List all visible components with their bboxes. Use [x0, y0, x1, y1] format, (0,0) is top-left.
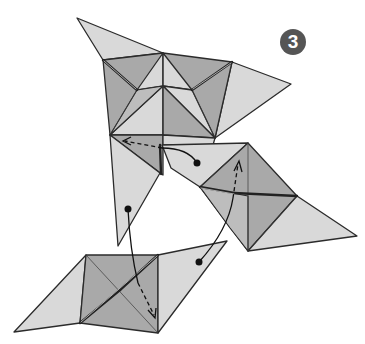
- bottom-left-flap: [14, 255, 86, 332]
- origami-diagram: 3: [0, 0, 365, 344]
- bottom-module: [14, 241, 227, 333]
- right-module: [162, 143, 357, 251]
- diagram-canvas: [0, 0, 365, 344]
- bottom-right-flap: [158, 241, 227, 333]
- top-left-flap: [77, 18, 163, 60]
